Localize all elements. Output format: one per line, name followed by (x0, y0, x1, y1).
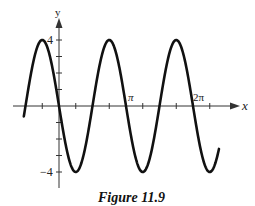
y-min-label: −4 (40, 165, 53, 179)
y-axis-arrow-icon (56, 18, 63, 28)
y-axis-label: y (55, 6, 61, 18)
pi-tick-label: π (128, 91, 134, 103)
x-axis-label: x (241, 98, 248, 113)
y-max-label: 4 (47, 33, 53, 47)
sine-graph-figure: y x 4 −4 π 2π Figure 11.9 (0, 0, 255, 206)
figure-caption: Figure 11.9 (97, 190, 165, 205)
two-pi-tick-label: 2π (193, 91, 205, 103)
x-axis-arrow-icon (230, 103, 240, 110)
